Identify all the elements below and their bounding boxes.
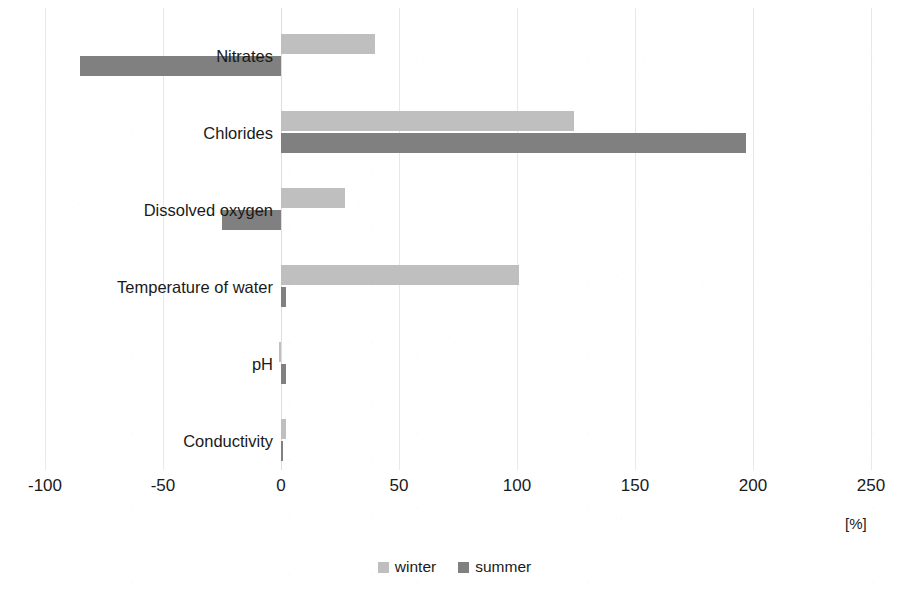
- bar-summer: [281, 287, 286, 307]
- bar-winter: [281, 419, 286, 439]
- x-tick-label: 200: [739, 476, 767, 496]
- legend-label: winter: [395, 558, 436, 576]
- x-tick-label: -100: [28, 476, 62, 496]
- gridline-250: [871, 8, 872, 470]
- bar-group: pH: [45, 316, 871, 393]
- legend-item-summer[interactable]: summer: [458, 558, 531, 576]
- bar-group: Nitrates: [45, 8, 871, 85]
- bar-summer: [281, 441, 283, 461]
- bar-winter: [281, 265, 519, 285]
- chart-legend: wintersummer: [0, 558, 909, 576]
- x-axis: -100-50050100150200250: [45, 470, 871, 500]
- bar-winter: [279, 342, 281, 362]
- x-axis-unit-label: [%]: [845, 515, 867, 532]
- bar-group: Chlorides: [45, 85, 871, 162]
- legend-label: summer: [475, 558, 531, 576]
- x-tick-label: 50: [390, 476, 409, 496]
- bar-summer: [281, 133, 746, 153]
- x-tick-label: -50: [151, 476, 176, 496]
- x-tick-label: 100: [503, 476, 531, 496]
- category-label: Dissolved oxygen: [144, 202, 273, 219]
- category-label: Chlorides: [203, 125, 273, 142]
- bar-summer: [281, 364, 286, 384]
- bar-group: Conductivity: [45, 393, 871, 470]
- plot-area: NitratesChloridesDissolved oxygenTempera…: [45, 8, 871, 470]
- x-tick-label: 0: [276, 476, 285, 496]
- x-tick-label: 150: [621, 476, 649, 496]
- category-label: Conductivity: [183, 433, 273, 450]
- bar-winter: [281, 34, 375, 54]
- category-label: Temperature of water: [117, 279, 273, 296]
- bar-winter: [281, 111, 574, 131]
- legend-item-winter[interactable]: winter: [378, 558, 436, 576]
- category-label: Nitrates: [216, 48, 273, 65]
- bar-chart: NitratesChloridesDissolved oxygenTempera…: [0, 0, 909, 602]
- legend-swatch-icon: [458, 562, 469, 573]
- bar-winter: [281, 188, 345, 208]
- x-tick-label: 250: [857, 476, 885, 496]
- bar-group: Temperature of water: [45, 239, 871, 316]
- category-label: pH: [252, 356, 273, 373]
- legend-swatch-icon: [378, 562, 389, 573]
- bar-group: Dissolved oxygen: [45, 162, 871, 239]
